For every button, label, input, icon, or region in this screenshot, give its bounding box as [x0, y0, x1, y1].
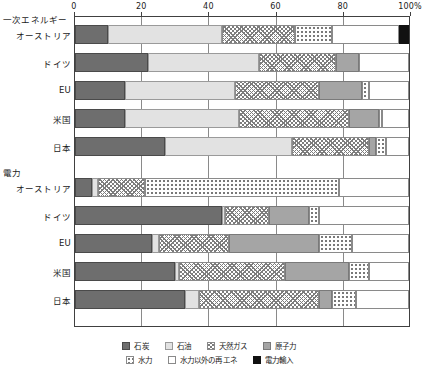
group-label: 一次エネルギー [3, 13, 67, 25]
bar-segment-coal [75, 206, 222, 225]
bar-segment-coal [75, 109, 125, 128]
bar-segment-coal [75, 262, 175, 281]
legend-item: 電力輸入 [253, 354, 293, 365]
bar-segment-hydro [319, 234, 352, 253]
legend-row-secondary: 水力水力以外の再エネ電力輸入 [0, 354, 419, 365]
bar-segment-nuclear [285, 262, 348, 281]
bar-segment-coal [75, 178, 92, 197]
bar-row [75, 290, 409, 309]
bar-segment-renewable [386, 137, 409, 156]
bar-segment-nuclear [319, 290, 332, 309]
legend-label: 水力 [138, 354, 152, 365]
plot-area [74, 16, 410, 327]
bar-row [75, 137, 409, 156]
bar-segment-coal [75, 290, 185, 309]
bar-segment-hydro [309, 206, 319, 225]
bar-segment-gas [159, 234, 229, 253]
row-label: 米国 [53, 113, 71, 125]
x-axis-tick-label: 40 [203, 2, 214, 11]
bar-segment-hydro [349, 262, 369, 281]
bar-segment-gas [259, 53, 336, 72]
bar-segment-coal [75, 137, 165, 156]
bar-segment-oil [185, 290, 198, 309]
row-label: オーストリア [16, 29, 71, 41]
bar-row [75, 25, 409, 44]
row-label: オーストリア [16, 182, 71, 194]
x-axis-tick-label: 20 [136, 2, 147, 11]
bar-segment-gas [235, 81, 319, 100]
bar-segment-oil [148, 53, 258, 72]
bar-segment-renewable [356, 290, 409, 309]
legend-item: 水力以外の再エネ [168, 354, 237, 365]
bar-segment-oil [125, 109, 239, 128]
bar-segment-renewable [319, 206, 409, 225]
row-label: EU [59, 85, 71, 95]
bar-segment-renewable [332, 25, 399, 44]
legend-label: 電力輸入 [265, 354, 293, 365]
bar-row [75, 234, 409, 253]
bar-segment-gas [179, 262, 286, 281]
bar-segment-oil [125, 81, 235, 100]
x-axis-tick [410, 12, 411, 16]
bar-row [75, 109, 409, 128]
bar-segment-hydro [376, 137, 386, 156]
legend-item: 原子力 [263, 340, 296, 351]
bar-segment-oil [92, 178, 99, 197]
bar-segment-nuclear [319, 81, 362, 100]
legend-item: 石油 [165, 340, 191, 351]
bar-segment-nuclear [269, 206, 309, 225]
legend-label: 水力以外の再エネ [180, 354, 237, 365]
legend: 石炭石油天然ガス原子力 水力水力以外の再エネ電力輸入 [0, 337, 419, 365]
bar-row [75, 81, 409, 100]
legend-label: 石炭 [134, 340, 148, 351]
legend-swatch-import [253, 356, 261, 364]
bar-segment-nuclear [229, 234, 319, 253]
row-label: ドイツ [43, 210, 71, 222]
row-label: 日本 [53, 141, 71, 153]
bar-segment-renewable [382, 109, 409, 128]
bar-segment-coal [75, 25, 108, 44]
bar-segment-renewable [352, 234, 409, 253]
legend-swatch-gas [207, 342, 215, 350]
bar-segment-nuclear [369, 137, 376, 156]
bar-segment-hydro [145, 178, 339, 197]
legend-item: 天然ガス [207, 340, 247, 351]
bar-segment-coal [75, 53, 148, 72]
legend-swatch-oil [165, 342, 173, 350]
legend-swatch-nuclear [263, 342, 271, 350]
x-axis-tick-label: 0 [71, 2, 76, 11]
legend-label: 石油 [177, 340, 191, 351]
x-axis-tick-label: 60 [270, 2, 281, 11]
bar-segment-gas [222, 25, 295, 44]
row-label: ドイツ [43, 57, 71, 69]
bar-segment-renewable [339, 178, 409, 197]
legend-row-primary: 石炭石油天然ガス原子力 [0, 340, 419, 351]
bar-row [75, 262, 409, 281]
bar-segment-oil [165, 137, 292, 156]
legend-swatch-hydro [126, 356, 134, 364]
bar-segment-renewable [369, 81, 409, 100]
bar-segment-coal [75, 81, 125, 100]
bar-segment-renewable [359, 53, 409, 72]
bar-segment-hydro [362, 81, 369, 100]
x-axis-tick-label: 100% [398, 2, 422, 11]
bar-segment-gas [239, 109, 349, 128]
legend-label: 天然ガス [219, 340, 247, 351]
bar-segment-oil [152, 234, 159, 253]
bar-row [75, 178, 409, 197]
bar-segment-nuclear [336, 53, 359, 72]
bar-row [75, 53, 409, 72]
row-label: EU [59, 238, 71, 248]
bar-segment-hydro [295, 25, 332, 44]
bar-segment-renewable [369, 262, 409, 281]
legend-label: 原子力 [275, 340, 296, 351]
x-axis-tick-label: 80 [338, 2, 349, 11]
bar-segment-coal [75, 234, 152, 253]
bar-segment-gas [98, 178, 145, 197]
legend-swatch-renewable [168, 356, 176, 364]
bar-row [75, 206, 409, 225]
bar-segment-gas [225, 206, 268, 225]
group-label: 電力 [3, 166, 21, 178]
bar-segment-gas [292, 137, 369, 156]
